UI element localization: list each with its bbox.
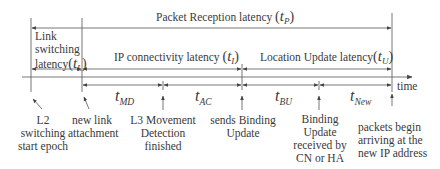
event-new-link: new link attachment [68, 114, 116, 140]
pointer-new-link [84, 97, 89, 109]
ip-connectivity-label: IP connectivity latency (tI) [114, 50, 239, 68]
tl-symbol: tL [73, 55, 82, 71]
segment-ac-label: tAC [195, 87, 212, 107]
segment-bu-label: tBU [275, 87, 292, 107]
event-binding-sent: sends Binding Update [208, 114, 278, 140]
event-packets-arrive: packets begin arriving at the new IP add… [358, 121, 427, 160]
time-axis-label: time [397, 80, 417, 93]
tp-symbol: tP [280, 8, 290, 24]
pointer-l2-start [33, 99, 42, 109]
location-update-label: Location Update latency(tU) [260, 50, 393, 68]
tu-symbol: tU [378, 48, 389, 64]
segment-md-label: tMD [115, 87, 134, 107]
event-l2-start: L2 switching start epoch [16, 114, 70, 153]
event-l3-detect: L3 Movement Detection finished [128, 114, 198, 153]
link-switching-label: Link switching latency(tL) [35, 30, 87, 75]
packet-reception-label: Packet Reception latency (tP) [156, 10, 294, 28]
event-bu-received: Binding Update received by CN or HA [292, 113, 348, 165]
segment-new-label: tNew [350, 87, 371, 107]
